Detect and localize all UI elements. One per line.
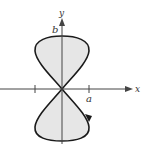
b-label: b [52,24,58,35]
a-label: a [86,93,92,104]
y-axis-label: y [58,8,65,18]
x-axis-label: x [135,84,140,94]
figure-eight-diagram: y x b a [0,0,143,144]
y-axis-arrow-icon [59,18,65,26]
x-axis-arrow-icon [125,86,133,92]
